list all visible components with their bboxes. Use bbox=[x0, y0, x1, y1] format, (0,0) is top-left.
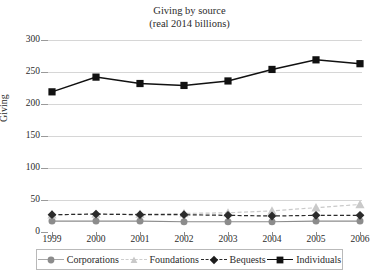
y-tick-mark-50 bbox=[41, 200, 48, 201]
chart-container: Giving by source (real 2014 billions) Gi… bbox=[0, 0, 379, 276]
x-tick-label-2006: 2006 bbox=[340, 234, 379, 244]
y-tick-mark-200 bbox=[41, 104, 48, 105]
legend-item-foundations[interactable]: Foundations bbox=[121, 254, 199, 266]
y-tick-label-200: 200 bbox=[6, 98, 40, 108]
legend-label-individuals: Individuals bbox=[296, 254, 341, 265]
gridline-300 bbox=[48, 40, 362, 41]
triangle-marker-icon bbox=[121, 254, 147, 266]
y-tick-mark-100 bbox=[41, 168, 48, 169]
legend-label-corporations: Corporations bbox=[67, 254, 119, 265]
circle-marker-icon bbox=[38, 254, 64, 266]
gridline-250 bbox=[48, 72, 362, 73]
y-tick-label-150: 150 bbox=[6, 130, 40, 140]
x-tick-label-2004: 2004 bbox=[252, 234, 292, 244]
y-tick-label-100: 100 bbox=[6, 162, 40, 172]
y-tick-mark-0 bbox=[41, 232, 48, 233]
legend-label-bequests: Bequests bbox=[230, 254, 266, 265]
diamond-marker-icon bbox=[201, 254, 227, 266]
y-tick-label-50: 50 bbox=[6, 194, 40, 204]
y-tick-mark-300 bbox=[41, 40, 48, 41]
chart-title: Giving by source bbox=[0, 5, 379, 18]
x-tick-label-2001: 2001 bbox=[120, 234, 160, 244]
legend-item-corporations[interactable]: Corporations bbox=[38, 254, 119, 266]
gridline-100 bbox=[48, 168, 362, 169]
chart-subtitle: (real 2014 billions) bbox=[0, 18, 379, 31]
y-tick-mark-250 bbox=[41, 72, 48, 73]
gridline-150 bbox=[48, 136, 362, 137]
plot-area bbox=[48, 40, 362, 232]
y-tick-label-300: 300 bbox=[6, 34, 40, 44]
chart-legend: Corporations Foundations Bequests bbox=[36, 249, 343, 270]
legend-item-bequests[interactable]: Bequests bbox=[201, 254, 266, 266]
x-tick-label-2002: 2002 bbox=[164, 234, 204, 244]
legend-label-foundations: Foundations bbox=[150, 254, 199, 265]
chart-title-block: Giving by source (real 2014 billions) bbox=[0, 5, 379, 30]
square-marker-icon bbox=[267, 254, 293, 266]
x-tick-label-1999: 1999 bbox=[32, 234, 72, 244]
y-tick-mark-150 bbox=[41, 136, 48, 137]
gridline-50 bbox=[48, 200, 362, 201]
y-tick-label-250: 250 bbox=[6, 66, 40, 76]
x-tick-label-2000: 2000 bbox=[76, 234, 116, 244]
legend-item-individuals[interactable]: Individuals bbox=[267, 254, 341, 266]
gridline-200 bbox=[48, 104, 362, 105]
x-tick-label-2005: 2005 bbox=[296, 234, 336, 244]
x-tick-label-2003: 2003 bbox=[208, 234, 248, 244]
